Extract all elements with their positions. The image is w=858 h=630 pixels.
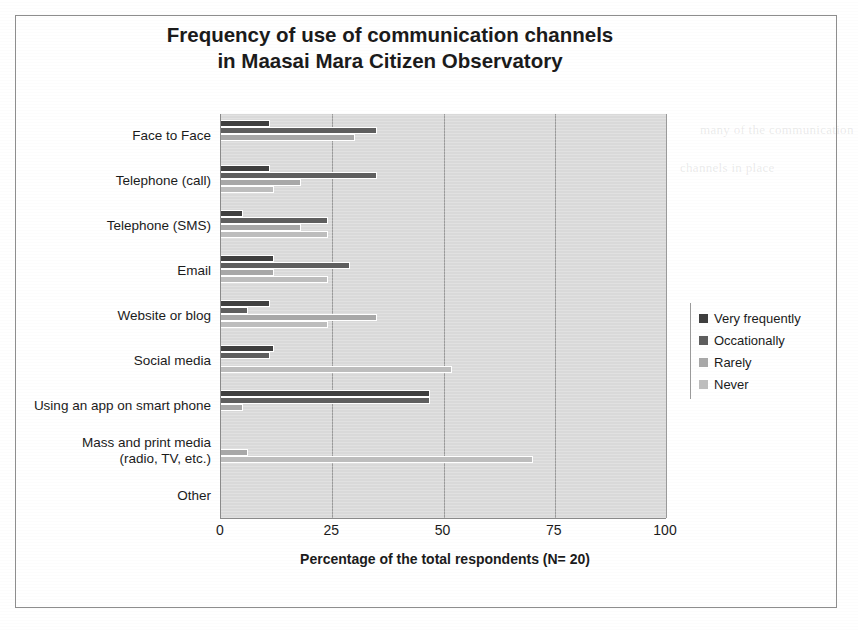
bar (221, 134, 355, 141)
chart-legend: Very frequentlyOccationallyRarelyNever (690, 303, 818, 399)
bar (221, 397, 430, 404)
bar (221, 366, 452, 373)
y-axis-tick-label-line: Face to Face (1, 128, 211, 144)
bar (221, 307, 248, 314)
gridline (666, 114, 667, 518)
bar (221, 186, 274, 193)
chart-title: Frequency of use of communication channe… (90, 22, 690, 74)
legend-label: Rarely (714, 355, 752, 370)
bar (221, 456, 533, 463)
y-axis-tick-label-line: Using an app on smart phone (1, 398, 211, 414)
bar-group (221, 114, 666, 159)
legend-swatch-icon (699, 380, 708, 389)
bar (221, 262, 350, 269)
y-axis-tick-label: Social media (1, 353, 211, 369)
x-axis-tick-label: 0 (216, 522, 224, 538)
bar (221, 390, 430, 397)
y-axis-tick-label: Using an app on smart phone (1, 398, 211, 414)
bar (221, 127, 377, 134)
legend-label: Never (714, 377, 749, 392)
y-axis-tick-label-line: Email (1, 263, 211, 279)
bar-group (221, 338, 666, 383)
y-axis-tick-label-line: Other (1, 488, 211, 504)
bar (221, 300, 270, 307)
bar (221, 321, 328, 328)
y-axis-tick-label: Website or blog (1, 308, 211, 324)
y-axis-tick-label: Face to Face (1, 128, 211, 144)
y-axis-tick-label-line: Mass and print media (1, 435, 211, 451)
bar-group (221, 383, 666, 428)
bar (221, 172, 377, 179)
legend-swatch-icon (699, 336, 708, 345)
legend-swatch-icon (699, 358, 708, 367)
legend-swatch-icon (699, 314, 708, 323)
y-axis-tick-label: Telephone (SMS) (1, 218, 211, 234)
x-axis-title: Percentage of the total respondents (N= … (140, 551, 750, 567)
bar-group (221, 159, 666, 204)
x-axis-tick-label: 100 (653, 522, 676, 538)
bar (221, 179, 301, 186)
bar (221, 449, 248, 456)
plot-area (220, 114, 666, 519)
x-axis-tick-label: 25 (323, 522, 339, 538)
bar (221, 224, 301, 231)
legend-item[interactable]: Rarely (699, 351, 818, 373)
x-axis-tick-label: 50 (435, 522, 451, 538)
y-axis-tick-label: Telephone (call) (1, 173, 211, 189)
bar-group (221, 473, 666, 518)
chart-title-line-2: in Maasai Mara Citizen Observatory (90, 48, 690, 74)
y-axis-tick-labels: Face to FaceTelephone (call)Telephone (S… (0, 114, 211, 518)
legend-item[interactable]: Never (699, 373, 818, 395)
bar-group (221, 294, 666, 339)
legend-item[interactable]: Occationally (699, 329, 818, 351)
x-axis-tick-labels: 0255075100 (220, 522, 665, 544)
bar (221, 120, 270, 127)
legend-label: Very frequently (714, 311, 801, 326)
bar (221, 231, 328, 238)
bar-group (221, 204, 666, 249)
legend-label: Occationally (714, 333, 785, 348)
bar-group (221, 249, 666, 294)
legend-item[interactable]: Very frequently (699, 307, 818, 329)
bar (221, 269, 274, 276)
bar (221, 255, 274, 262)
bar (221, 314, 377, 321)
y-axis-tick-label-line: (radio, TV, etc.) (1, 451, 211, 467)
y-axis-tick-label-line: Website or blog (1, 308, 211, 324)
bar (221, 276, 328, 283)
y-axis-tick-label: Other (1, 488, 211, 504)
bar-group (221, 428, 666, 473)
bar (221, 345, 274, 352)
y-axis-tick-label-line: Telephone (SMS) (1, 218, 211, 234)
y-axis-tick-label-line: Telephone (call) (1, 173, 211, 189)
y-axis-tick-label-line: Social media (1, 353, 211, 369)
bar (221, 210, 243, 217)
x-axis-tick-label: 75 (546, 522, 562, 538)
bar (221, 165, 270, 172)
chart-title-line-1: Frequency of use of communication channe… (90, 22, 690, 48)
y-axis-tick-label: Email (1, 263, 211, 279)
bar (221, 217, 328, 224)
y-axis-tick-label: Mass and print media(radio, TV, etc.) (1, 435, 211, 468)
bar (221, 404, 243, 411)
bar (221, 352, 270, 359)
